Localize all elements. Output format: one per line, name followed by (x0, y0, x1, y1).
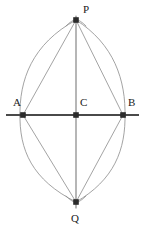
point-label-p: P (83, 3, 89, 15)
point-marker-c (73, 112, 79, 118)
point-marker-a (20, 112, 26, 118)
point-label-q: Q (71, 212, 79, 224)
point-marker-b (120, 112, 126, 118)
point-marker-p (73, 17, 79, 23)
point-label-a: A (13, 96, 21, 108)
point-label-c: C (80, 96, 87, 108)
point-marker-q (73, 199, 79, 205)
geometry-figure: P A C B Q (0, 0, 144, 232)
point-label-b: B (128, 96, 135, 108)
